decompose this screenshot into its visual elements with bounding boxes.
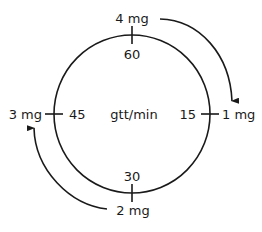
- arrow-4mg-to-1mg: [160, 19, 232, 101]
- drip-rate-dial-diagram: 60 15 30 45 4 mg 1 mg 2 mg 3 mg gtt/min: [0, 0, 262, 232]
- rate-label-top: 60: [124, 47, 141, 62]
- dose-label-right: 1 mg: [222, 107, 255, 122]
- dose-label-bottom: 2 mg: [116, 203, 149, 218]
- rate-label-left: 45: [69, 107, 86, 122]
- center-unit-label: gtt/min: [110, 107, 157, 122]
- rate-label-bottom: 30: [124, 169, 141, 184]
- rate-label-right: 15: [179, 107, 196, 122]
- dose-label-left: 3 mg: [9, 107, 42, 122]
- arrow-2mg-to-3mg: [34, 128, 107, 209]
- dose-label-top: 4 mg: [115, 11, 148, 26]
